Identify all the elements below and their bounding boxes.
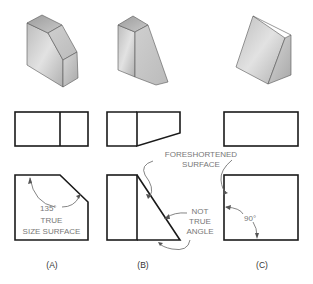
front-view-b: NOT TRUE ANGLE — [107, 161, 214, 250]
size-surface-label: SIZE SURFACE — [23, 227, 81, 236]
arrowhead-icon — [28, 177, 32, 184]
not-label: NOT — [192, 207, 209, 216]
front-view-a: 135° TRUE SIZE SURFACE — [15, 175, 88, 240]
angle-arc — [30, 178, 55, 207]
orthographic-views-diagram: 135° TRUE SIZE SURFACE NOT TRUE ANGLE 90… — [0, 0, 313, 284]
top-view-b — [107, 112, 180, 146]
true-label: TRUE — [41, 216, 63, 225]
arrowhead-icon — [255, 233, 259, 239]
front-view-c: 90° — [221, 160, 298, 240]
arrowhead-icon — [225, 205, 231, 210]
caption-b: (B) — [137, 260, 149, 270]
caption-a: (A) — [46, 260, 58, 270]
angle-label-90: 90° — [244, 214, 256, 223]
surface-text: SURFACE — [182, 160, 220, 169]
angle-label-135: 135° — [40, 204, 57, 213]
angle-label: ANGLE — [186, 227, 213, 236]
top-view-a — [15, 112, 88, 146]
isometric-object-c — [236, 16, 291, 84]
isometric-object-b — [118, 16, 168, 85]
foreshortened-text: FORESHORTENED — [165, 150, 238, 159]
true-label: TRUE — [189, 217, 211, 226]
foreshortened-surface-label: FORESHORTENED SURFACE — [165, 150, 238, 169]
caption-c: (C) — [256, 260, 268, 270]
arrowhead-icon — [223, 190, 228, 195]
isometric-object-a — [27, 15, 78, 87]
leader-line — [159, 240, 190, 250]
leader-line — [221, 160, 232, 192]
top-view-c — [224, 112, 298, 146]
arrowhead-icon — [76, 194, 81, 199]
